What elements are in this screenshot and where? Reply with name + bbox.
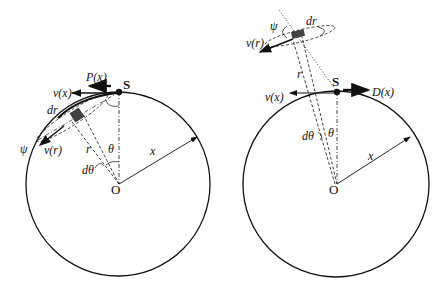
right-dtheta-label: dθ xyxy=(302,129,314,143)
right-source-label: S xyxy=(332,74,339,89)
right-dtheta-brace xyxy=(318,132,322,140)
left-corner-arc xyxy=(106,100,119,106)
left-force-label: P(x) xyxy=(85,70,107,84)
right-radius-x xyxy=(337,137,410,184)
left-dtheta-brace xyxy=(95,163,104,168)
left-r-label: r xyxy=(86,142,91,156)
left-x-label: x xyxy=(149,144,156,158)
left-element-ellipse xyxy=(33,89,111,146)
left-source-label: S xyxy=(123,77,130,92)
right-center-label: O xyxy=(329,182,338,197)
left-panel: P(x) S v(x) dr ψ v(r) r θ dθ x O xyxy=(20,70,210,276)
right-vr-label: v(r) xyxy=(246,36,264,50)
right-vx-label: v(x) xyxy=(265,90,284,104)
left-psi-label: ψ xyxy=(20,142,28,156)
left-vx-label: v(x) xyxy=(53,86,72,100)
right-theta-label: θ xyxy=(328,126,334,140)
left-radius-x xyxy=(119,137,197,184)
right-dr-brace xyxy=(318,27,325,36)
left-dr-label: dr xyxy=(47,103,58,117)
right-dr-label: dr xyxy=(306,14,317,28)
right-force-label: D(x) xyxy=(371,85,394,99)
right-psi-arc xyxy=(283,26,288,38)
left-theta-label: θ xyxy=(108,142,114,156)
left-center-label: O xyxy=(111,182,120,197)
right-r-line-2 xyxy=(302,37,337,184)
right-vr-arrow xyxy=(260,39,293,52)
diagram-canvas: P(x) S v(x) dr ψ v(r) r θ dθ x O ψ dr v(… xyxy=(0,0,443,285)
right-panel: ψ dr v(r) r S D(x) v(x) θ dθ x O xyxy=(243,10,429,277)
right-psi-label: ψ xyxy=(270,19,278,33)
left-vr-label: v(r) xyxy=(44,143,62,157)
right-r-label: r xyxy=(297,67,302,81)
left-dtheta-label: dθ xyxy=(82,163,94,177)
right-x-label: x xyxy=(367,149,374,163)
right-r-line-1 xyxy=(293,40,335,184)
left-theta-arc xyxy=(106,161,119,165)
